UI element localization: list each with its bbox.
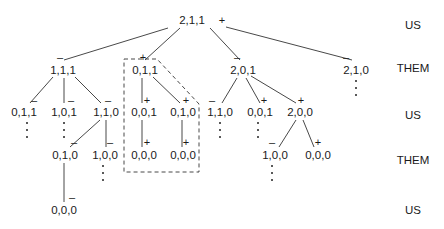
edge [145, 28, 180, 60]
row-label-them: THEM [397, 154, 430, 166]
plus-mark: + [219, 14, 225, 26]
row-label-us: US [405, 109, 421, 121]
row-label-us: US [405, 19, 421, 31]
tree-node: 0,1,1 [132, 64, 158, 76]
tree-node: 0,1,0 [52, 149, 78, 161]
plus-mark: + [144, 94, 150, 106]
minus-mark: – [269, 136, 275, 148]
tree-node: 0,0,0 [170, 149, 196, 161]
continuation-dots [219, 122, 221, 143]
plus-mark: + [261, 94, 267, 106]
minus-mark: – [68, 94, 74, 106]
tree-node: 1,1,0 [207, 106, 233, 118]
continuation-dots [26, 122, 28, 143]
tree-node: 0,0,1 [247, 106, 273, 118]
minus-mark: – [71, 136, 77, 148]
tree-node: 2,0,1 [230, 64, 256, 76]
minus-mark: – [107, 136, 113, 148]
tree-node: 1,0,0 [262, 149, 288, 161]
continuation-dots [63, 122, 65, 143]
minus-mark: – [57, 51, 63, 63]
tree-node: 1,0,0 [92, 149, 118, 161]
plus-mark: + [315, 136, 321, 148]
tree-node: 2,1,0 [343, 64, 369, 76]
edge [279, 120, 296, 147]
continuation-dots [102, 165, 104, 186]
row-label-us: US [405, 204, 421, 216]
tree-node: 0,0,1 [131, 106, 157, 118]
continuation-dots [355, 80, 357, 101]
minus-mark: – [234, 51, 240, 63]
edge [64, 28, 168, 60]
tree-node: 0,0,0 [131, 149, 157, 161]
minus-mark: – [343, 51, 349, 63]
continuation-dots [257, 122, 259, 143]
tree-node: 1,1,1 [50, 64, 76, 76]
tree-node: 0,0,0 [51, 204, 77, 216]
tree-node: 0,0,0 [305, 149, 331, 161]
tree-node: 1,0,1 [51, 106, 77, 118]
tree-node: 1,1,0 [93, 106, 119, 118]
tree-node: 2,0,0 [287, 106, 313, 118]
continuation-dots [271, 165, 273, 186]
edge [303, 120, 314, 147]
tree-node: 0,1,1 [11, 106, 37, 118]
edge [226, 27, 352, 60]
tree-node: 0,1,0 [170, 106, 196, 118]
plus-mark: + [144, 136, 150, 148]
plus-mark: + [183, 94, 189, 106]
plus-mark: + [183, 136, 189, 148]
edge [153, 77, 180, 103]
minus-mark: – [69, 191, 75, 203]
tree-node: 2,1,1 [179, 14, 205, 26]
plus-mark: + [298, 94, 304, 106]
edge [75, 77, 101, 103]
edge [222, 78, 237, 103]
row-label-them: THEM [397, 62, 430, 74]
minus-mark: – [105, 94, 111, 106]
minus-mark: – [209, 94, 215, 106]
edge [246, 78, 260, 103]
plus-mark: + [140, 51, 146, 63]
minus-mark: – [31, 94, 37, 106]
